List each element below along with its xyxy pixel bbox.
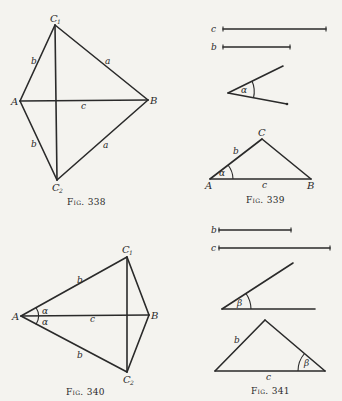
point-b-label: B — [150, 310, 158, 321]
point-c2-sub: 2 — [129, 379, 134, 386]
angle-label-alpha-upper: α — [42, 306, 48, 316]
angle-label-alpha: α — [219, 168, 225, 178]
figure-338: C 1 A B C 2 b a c b a Fig. 338 — [10, 13, 157, 207]
side-c1b — [55, 25, 148, 100]
given-segment-c-label: c — [211, 243, 216, 253]
side-label-c: c — [90, 314, 95, 324]
side-label-b: b — [234, 335, 240, 345]
given-angle-ray-upper — [228, 66, 283, 93]
angle-label-beta: β — [303, 358, 309, 368]
point-c2-sub: 2 — [58, 187, 63, 194]
given-segment-b-label: b — [211, 42, 217, 52]
point-a-label: A — [10, 96, 18, 107]
given-angle-ray-lower — [228, 93, 287, 104]
side-ac — [210, 139, 262, 179]
point-a-label: A — [204, 180, 212, 191]
given-angle-ray-upper — [222, 263, 293, 309]
ray-end-dot — [286, 103, 289, 106]
side-right — [265, 320, 325, 371]
point-c1-sub: 1 — [129, 249, 133, 256]
figure-340: C 1 A B C 2 b c b α α Fig. 340 — [11, 244, 158, 397]
side-label-c: c — [266, 372, 271, 382]
given-segment-c-label: c — [211, 24, 216, 34]
side-ab — [21, 315, 149, 316]
figure-341: b c β b c β Fig. 341 — [211, 225, 330, 396]
figure-338-caption: Fig. 338 — [67, 197, 106, 207]
given-segment-b-label: b — [211, 225, 217, 235]
side-label-a-upper: a — [105, 56, 110, 66]
point-c1-sub: 1 — [57, 18, 61, 25]
point-b-label: B — [149, 95, 157, 106]
figure-341-caption: Fig. 341 — [251, 386, 290, 396]
side-label-c: c — [81, 101, 86, 111]
side-c1b — [127, 257, 149, 315]
figure-340-caption: Fig. 340 — [66, 387, 105, 397]
given-angle-arc — [252, 81, 254, 98]
given-angle-alpha: α — [241, 85, 247, 95]
angle-label-alpha-lower: α — [42, 317, 48, 327]
given-angle-beta: β — [236, 298, 242, 308]
side-label-b-lower: b — [77, 350, 83, 360]
figure-339-caption: Fig. 339 — [246, 195, 285, 205]
side-label-b: b — [233, 146, 239, 156]
geometry-figures-page: C 1 A B C 2 b a c b a Fig. 338 c b α C A… — [0, 0, 342, 401]
side-label-b-upper: b — [77, 275, 83, 285]
side-ac1 — [20, 25, 55, 101]
side-c2b — [127, 315, 149, 372]
figure-339: c b α C A B b c α Fig. 339 — [204, 24, 326, 205]
side-left — [215, 320, 265, 371]
side-ac2 — [21, 316, 127, 372]
side-label-b-lower: b — [31, 139, 37, 149]
side-ac1 — [21, 257, 127, 316]
side-label-c: c — [262, 180, 267, 190]
point-b-label: B — [306, 180, 314, 191]
side-label-a-lower: a — [103, 140, 108, 150]
given-angle-arc — [246, 294, 251, 310]
side-cb — [262, 139, 311, 179]
angle-a-arc — [228, 165, 233, 179]
point-a-label: A — [11, 311, 19, 322]
point-c-label: C — [258, 127, 266, 138]
side-ac2 — [20, 101, 57, 180]
side-label-b-upper: b — [31, 56, 37, 66]
line-c1c2 — [55, 25, 57, 180]
